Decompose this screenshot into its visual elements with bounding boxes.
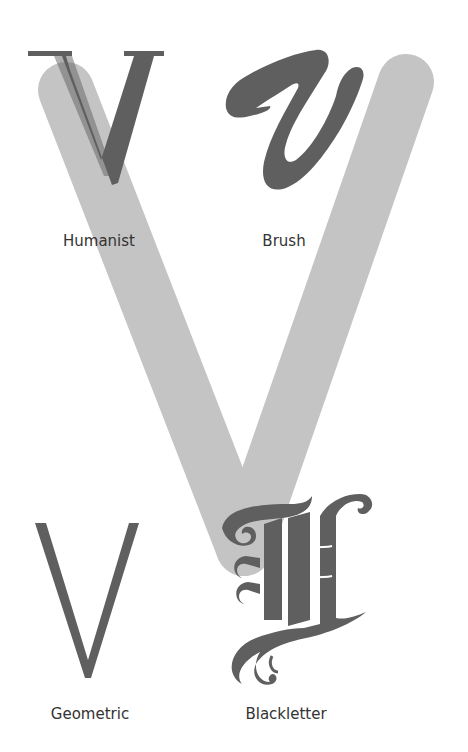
brush-v-glyph bbox=[220, 44, 370, 194]
humanist-label: Humanist bbox=[63, 232, 135, 250]
blackletter-v-glyph bbox=[216, 488, 386, 698]
humanist-v-glyph bbox=[26, 48, 168, 188]
geometric-label: Geometric bbox=[51, 705, 129, 723]
blackletter-label: Blackletter bbox=[245, 705, 326, 723]
geometric-v-glyph bbox=[32, 520, 142, 682]
brush-label: Brush bbox=[262, 232, 305, 250]
